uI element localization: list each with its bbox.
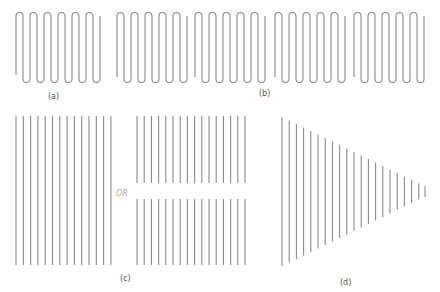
panel-c-split-lines-top <box>137 116 245 183</box>
figure-canvas: (a) (b) OR <box>0 0 440 292</box>
panel-b-label: (b) <box>259 89 270 98</box>
panel-c-parallel-lines <box>16 116 111 265</box>
panel-b-serpentines <box>117 13 424 83</box>
panel-c-label: (c) <box>120 274 131 283</box>
panel-d-label: (d) <box>340 278 351 287</box>
or-text: OR <box>116 189 128 198</box>
panel-d-tapered-lines <box>282 117 425 266</box>
panel-a-label: (a) <box>48 92 59 101</box>
panel-c-split-lines-bottom <box>137 199 245 265</box>
panel-a-serpentine <box>16 13 100 83</box>
